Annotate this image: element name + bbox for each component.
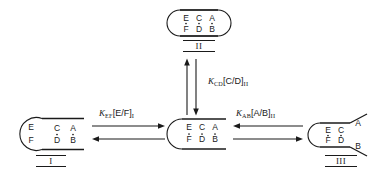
residue-label: E [325,125,331,135]
residue-label: F [183,24,188,34]
residue-label: E [186,122,192,132]
molecule-node-III: E C F D A B [306,113,372,157]
residue-label: B [209,24,215,34]
molecule-node-II: E C A F D B [168,8,230,38]
molecule-node-center: E C A F D B [168,117,230,151]
equilibrium-arrows-right [232,122,304,146]
arrow-head-down [193,109,199,116]
residue-label: A [212,122,218,132]
residue-label: E [183,13,189,23]
residue-label: B [212,134,218,144]
equilibrium-bracket-term: [E/F] [113,108,132,118]
residue-label: C [54,123,60,133]
residue-label: F [186,134,191,144]
arrow-head-left [92,136,99,141]
residue-label: C [196,13,202,23]
residue-label: A [70,123,76,133]
equilibrium-scheme-figure: E C A F D B II KCD[C/D]II [0,0,380,180]
residue-label: D [199,134,205,144]
molecule-node-I: E F C A D B [16,117,88,151]
residue-label: C [199,122,205,132]
node-numeral-II: II [183,40,215,52]
residue-label: B [355,141,361,151]
residue-label: C [338,125,344,135]
closed-loop-end [308,123,320,147]
residue-label: D [54,135,60,145]
residue-label: D [338,135,344,145]
arrow-head-left [233,123,240,128]
residue-label: A [355,118,361,128]
equilibrium-constant-subscript: EF [105,112,113,119]
residue-label: F [325,135,330,145]
equilibrium-bracket-term: [A/B] [251,108,271,118]
closed-loop-end [167,119,182,149]
arrow-head-up [184,59,190,66]
equilibrium-arrows-vertical [182,58,208,116]
residue-label: A [209,13,215,23]
residue-label: D [196,24,202,34]
equilibrium-constant-subscript: AB [242,112,251,119]
equilibrium-state-subscript: II [271,112,276,119]
equilibrium-bracket-term: [C/D] [223,76,244,86]
residue-label: E [28,122,34,132]
arrow-head-right [296,136,303,141]
equilibrium-label-EF: KEF[E/F]I [99,108,134,119]
node-numeral-III: III [325,155,357,167]
equilibrium-arrows-left [91,122,166,146]
residue-label: F [28,135,33,145]
arrow-head-right [158,123,165,128]
node-numeral-I: I [36,155,66,167]
residue-label: B [70,135,76,145]
equilibrium-constant-subscript: CD [214,80,223,87]
equilibrium-state-subscript: II [244,80,249,87]
equilibrium-state-subscript: I [132,112,134,119]
equilibrium-label-AB: KAB[A/B]II [236,108,275,119]
equilibrium-label-CD: KCD[C/D]II [208,76,248,87]
